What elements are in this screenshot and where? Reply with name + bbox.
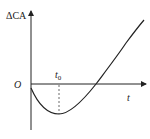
origin-label: O xyxy=(14,79,21,90)
t0-label: t0 xyxy=(55,69,62,82)
t0-subscript: 0 xyxy=(58,74,62,82)
delta-ca-diagram: ΔCA O t t0 xyxy=(0,0,150,139)
x-axis-label: t xyxy=(127,92,130,103)
y-axis-label: ΔCA xyxy=(6,10,27,21)
